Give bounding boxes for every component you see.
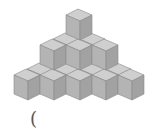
cube <box>66 69 92 100</box>
cube <box>118 69 144 100</box>
cube <box>92 69 118 100</box>
cube-pyramid-figure <box>0 0 157 134</box>
answer-bracket: ( <box>30 108 37 130</box>
cube <box>40 69 66 100</box>
cube <box>14 69 40 100</box>
cube <box>40 39 66 70</box>
cube <box>66 39 92 70</box>
cube <box>92 39 118 70</box>
cube <box>66 9 92 40</box>
